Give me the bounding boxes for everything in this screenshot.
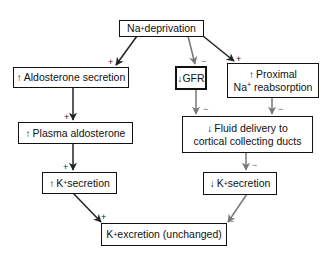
- node-aldosterone-secretion: ↑Aldosterone secretion: [13, 67, 129, 88]
- sign-plus: +: [101, 213, 106, 222]
- node-k-secretion-decrease: ↓K+ secretion: [203, 172, 277, 195]
- up-arrow-icon: ↑: [249, 69, 254, 80]
- sign-minus: −: [252, 161, 257, 170]
- arrow-na-to-gfr: [188, 36, 195, 64]
- sign-minus: −: [278, 105, 283, 114]
- node-plasma-aldosterone: ↑Plasma aldosterone: [18, 122, 133, 144]
- node-gfr: ↓GFR: [175, 66, 207, 90]
- down-arrow-icon: ↓: [207, 123, 212, 134]
- sign-minus: −: [229, 217, 234, 226]
- node-k-secretion-increase: ↑K+ secretion: [42, 172, 117, 194]
- node-na-deprivation: Na+ deprivation: [119, 20, 204, 37]
- down-arrow-icon: ↓: [210, 177, 215, 190]
- up-arrow-icon: ↑: [17, 71, 22, 84]
- node-k-excretion: K+ excretion (unchanged): [101, 223, 227, 246]
- sign-minus: −: [201, 57, 206, 66]
- node-fluid-delivery: ↓Fluid delivery to cortical collecting d…: [182, 116, 313, 153]
- sign-minus: −: [203, 105, 208, 114]
- sign-plus: +: [64, 113, 69, 122]
- arrow-na-to-proximal: [203, 36, 234, 61]
- sign-plus: +: [108, 58, 113, 67]
- node-proximal-na-reabsorption: ↑Proximal Na+ reabsorption: [227, 63, 319, 98]
- sign-plus: +: [63, 163, 68, 172]
- up-arrow-icon: ↑: [26, 127, 31, 140]
- arrow-ksec-up-to-excretion: [73, 193, 101, 222]
- arrow-na-to-aldo: [116, 36, 137, 65]
- up-arrow-icon: ↑: [49, 177, 54, 190]
